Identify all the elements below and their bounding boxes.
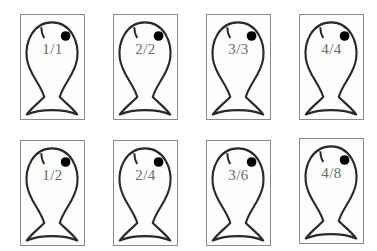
fraction-label: 2/2 xyxy=(114,41,177,58)
fish-icon xyxy=(300,139,363,243)
fish-card-3-6: 3/6 xyxy=(206,140,271,246)
fraction-label: 2/4 xyxy=(114,167,177,184)
fish-card-2-4: 2/4 xyxy=(113,140,178,246)
fish-icon xyxy=(300,15,363,119)
fish-card-4-4: 4/4 xyxy=(299,14,364,120)
fish-card-4-8: 4/8 xyxy=(299,138,364,244)
fish-icon xyxy=(114,15,177,119)
fish-card-1-1: 1/1 xyxy=(20,14,85,120)
fraction-label: 4/8 xyxy=(300,165,363,182)
fraction-label: 1/1 xyxy=(21,41,84,58)
fish-icon xyxy=(114,141,177,245)
fraction-label: 4/4 xyxy=(300,41,363,58)
fraction-label: 3/3 xyxy=(207,41,270,58)
fish-icon xyxy=(207,141,270,245)
fish-card-2-2: 2/2 xyxy=(113,14,178,120)
fish-icon xyxy=(21,141,84,245)
fish-card-1-2: 1/2 xyxy=(20,140,85,246)
fish-icon xyxy=(207,15,270,119)
fraction-label: 3/6 xyxy=(207,167,270,184)
fish-icon xyxy=(21,15,84,119)
fish-card-3-3: 3/3 xyxy=(206,14,271,120)
fraction-label: 1/2 xyxy=(21,167,84,184)
